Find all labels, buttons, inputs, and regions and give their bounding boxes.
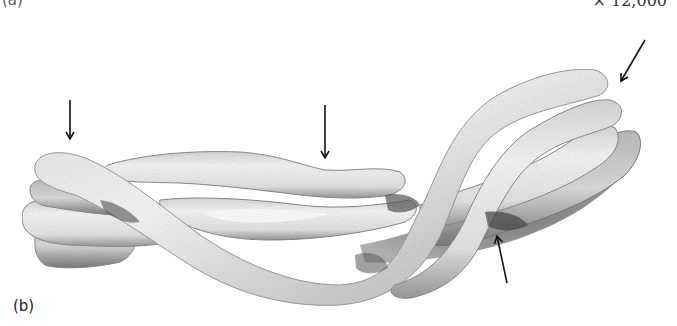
arrow-3-icon <box>621 40 645 81</box>
strands-group <box>22 69 640 305</box>
figure-panel: (a) × 12,000 (b) <box>0 0 677 326</box>
previous-panel-label: (a) <box>2 0 23 9</box>
magnification-label: × 12,000 <box>593 0 667 10</box>
rope-illustration <box>0 0 677 326</box>
strand-middle-upper <box>104 152 405 198</box>
panel-label: (b) <box>13 297 34 315</box>
